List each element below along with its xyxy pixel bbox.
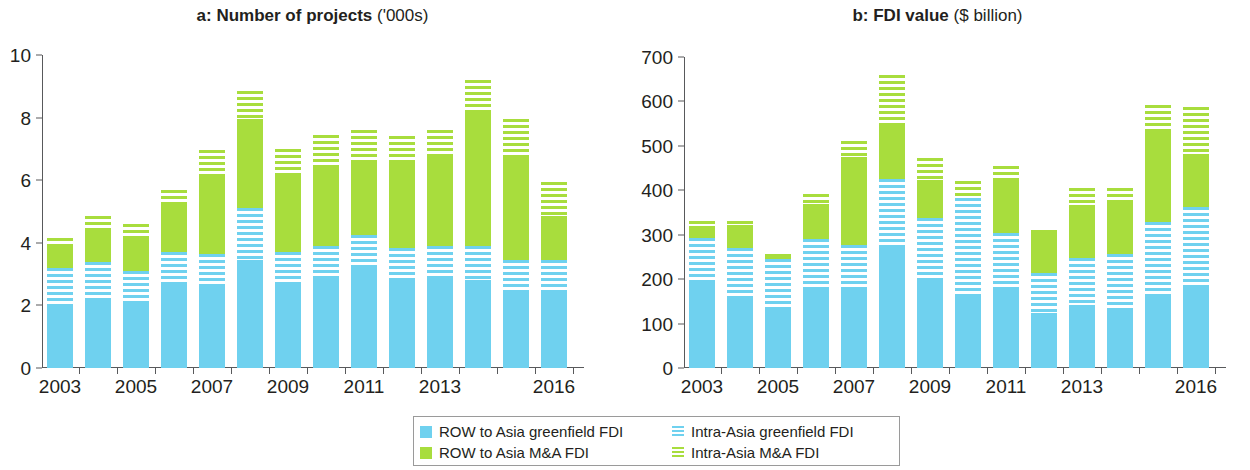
bar-segment	[47, 307, 73, 368]
bar-segment	[85, 262, 111, 298]
x-tick-mark	[759, 368, 760, 374]
y-tick-mark	[36, 55, 42, 56]
bar-segment	[503, 291, 529, 368]
legend-item: Intra-Asia M&A FDI	[672, 445, 819, 461]
bar-segment	[541, 290, 567, 368]
legend-label: ROW to Asia greenfield FDI	[439, 424, 623, 440]
y-axis-b	[684, 57, 685, 368]
bar-segment	[389, 136, 415, 159]
x-tick-mark	[117, 368, 118, 374]
bar-segment	[85, 229, 111, 262]
bar-segment	[917, 280, 943, 368]
bar-segment	[1183, 288, 1209, 368]
y-tick-mark	[678, 234, 684, 235]
x-axis-label-2016: 2016	[1175, 377, 1217, 397]
bar-segment	[803, 204, 829, 239]
bar-segment	[199, 174, 225, 254]
bar-segment	[237, 91, 263, 119]
bar-segment	[1069, 258, 1095, 306]
x-tick-mark	[421, 368, 422, 374]
x-axis-label-2007: 2007	[191, 377, 233, 397]
bar-segment	[727, 248, 753, 297]
y-tick-mark	[678, 279, 684, 280]
x-tick-mark	[873, 368, 874, 374]
bar-2014	[465, 55, 491, 368]
bar-segment	[993, 288, 1019, 368]
bar-segment	[123, 301, 149, 368]
bar-segment	[1069, 188, 1095, 205]
panel-b-title-unit: ($ billion)	[954, 6, 1023, 25]
bar-segment	[199, 150, 225, 173]
bar-2014	[1107, 57, 1133, 368]
bar-segment	[541, 182, 567, 216]
y-tick-mark	[36, 117, 42, 118]
bar-segment	[1107, 310, 1133, 368]
x-axis-label-2013: 2013	[1061, 377, 1103, 397]
bar-segment	[955, 181, 981, 198]
bar-2016	[541, 55, 567, 368]
bar-segment	[465, 80, 491, 113]
bar-segment	[727, 221, 753, 225]
x-tick-mark	[459, 368, 460, 374]
bar-2010	[313, 55, 339, 368]
x-tick-mark	[949, 368, 950, 374]
x-tick-mark	[155, 368, 156, 374]
bar-segment	[879, 179, 905, 247]
bar-segment	[161, 284, 187, 369]
bar-2005	[123, 55, 149, 368]
bar-segment	[85, 298, 111, 368]
bar-2011	[993, 57, 1019, 368]
bar-segment	[351, 235, 377, 266]
bar-2003	[47, 55, 73, 368]
bar-segment	[427, 157, 453, 246]
bar-segment	[541, 260, 567, 290]
x-tick-mark	[1139, 368, 1140, 374]
bar-2007	[841, 57, 867, 368]
bar-segment	[1145, 105, 1171, 129]
bar-2012	[1031, 57, 1057, 368]
bar-segment	[389, 248, 415, 281]
bar-2005	[765, 57, 791, 368]
bar-segment	[313, 277, 339, 368]
bar-2012	[389, 55, 415, 368]
bar-segment	[351, 130, 377, 160]
panel-a-title-text: Number of projects	[216, 6, 372, 25]
bar-2015	[503, 55, 529, 368]
bar-segment	[1183, 154, 1209, 207]
bar-segment	[427, 277, 453, 368]
x-axis-label-2009: 2009	[909, 377, 951, 397]
y-tick-mark	[678, 323, 684, 324]
legend-label: Intra-Asia M&A FDI	[691, 445, 819, 461]
bar-segment	[727, 225, 753, 248]
bar-2016	[1183, 57, 1209, 368]
bar-segment	[1031, 230, 1057, 273]
bar-segment	[161, 252, 187, 283]
bar-segment	[955, 198, 981, 295]
bar-segment	[237, 208, 263, 260]
bar-segment	[427, 130, 453, 157]
bar-segment	[503, 260, 529, 291]
bar-segment	[1069, 305, 1095, 368]
bar-segment	[313, 135, 339, 165]
bar-segment	[689, 280, 715, 368]
bar-segment	[803, 239, 829, 287]
plot-area-b: 0100200300400500600700200320052007200920…	[684, 57, 1220, 368]
bar-segment	[841, 157, 867, 245]
bar-segment	[765, 259, 791, 309]
bar-segment	[1107, 254, 1133, 310]
y-tick-mark	[36, 305, 42, 306]
bar-segment	[123, 271, 149, 301]
y-tick-mark	[36, 368, 42, 369]
x-tick-mark	[987, 368, 988, 374]
panel-b-letter: b:	[852, 6, 868, 25]
legend-label: ROW to Asia M&A FDI	[439, 445, 589, 461]
bar-segment	[275, 149, 301, 174]
bar-segment	[879, 75, 905, 124]
bar-segment	[123, 224, 149, 237]
legend-swatch-icon	[420, 426, 432, 438]
x-axis-label-2011: 2011	[344, 377, 385, 397]
bar-segment	[541, 216, 567, 260]
bar-segment	[803, 287, 829, 368]
bar-segment	[199, 287, 225, 368]
x-tick-mark	[721, 368, 722, 374]
